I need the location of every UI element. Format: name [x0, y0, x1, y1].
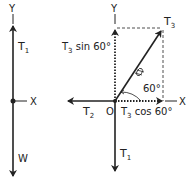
t3-cos-component-label: T3 cos 60° [120, 106, 173, 120]
t3-label: T3 [163, 15, 175, 30]
origin-point [113, 99, 117, 103]
angle-arc [121, 92, 141, 101]
angle-label: 60° [143, 83, 161, 94]
left-t1-label: T1 [17, 40, 29, 55]
t1-label: T1 [119, 147, 131, 162]
free-body-diagram: Y X T1 W Y T3 60° X [0, 0, 188, 180]
left-w-label: W [18, 153, 28, 164]
t2-label: T2 [82, 105, 94, 120]
right-free-body-diagram: Y T3 60° X T2 T1 O T3 sin 6 [61, 3, 186, 171]
left-y-axis-label: Y [8, 3, 16, 14]
left-free-body-diagram: Y X T1 W [8, 3, 37, 176]
left-x-axis-label: X [30, 96, 37, 107]
right-y-axis-label: Y [110, 3, 118, 14]
right-x-axis-label: X [179, 96, 186, 107]
t3-sin-component-label: T3 sin 60° [61, 41, 111, 55]
origin-label: O [106, 106, 114, 117]
